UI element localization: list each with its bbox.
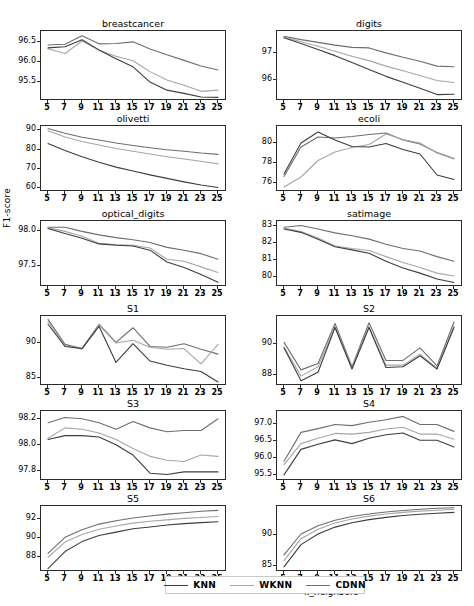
x-tick-mark — [149, 385, 150, 388]
x-tick-mark — [317, 100, 318, 103]
subplot-breastcancer: breastcancer95.596.096.55791113151719212… — [40, 18, 226, 116]
line-series-KNN — [284, 38, 454, 95]
y-tick-label: 97.0 — [254, 419, 272, 427]
x-tick-mark — [334, 480, 335, 483]
y-tick-label: 88 — [262, 370, 272, 378]
x-tick-label: 25 — [211, 484, 222, 492]
x-tick-mark — [317, 286, 318, 289]
legend-item-WKNN[interactable]: WKNN — [230, 580, 292, 590]
x-tick-label: 13 — [109, 484, 120, 492]
x-tick-label: 19 — [160, 290, 171, 298]
line-series-KNN — [284, 512, 454, 566]
x-tick-label: 9 — [78, 575, 84, 583]
x-tick-mark — [200, 480, 201, 483]
x-tick-mark — [47, 385, 48, 388]
x-tick-mark — [368, 286, 369, 289]
x-tick-mark — [453, 571, 454, 574]
x-tick-label: 23 — [430, 389, 441, 397]
x-tick-mark — [402, 480, 403, 483]
x-tick-mark — [166, 480, 167, 483]
x-tick-label: 23 — [430, 104, 441, 112]
x-tick-label: 17 — [379, 389, 390, 397]
x-tick-mark — [166, 571, 167, 574]
x-tick-label: 19 — [396, 290, 407, 298]
x-tick-mark — [351, 286, 352, 289]
series-lines — [277, 31, 463, 101]
subplot-S3: S397.898.098.25791113151719212325 — [40, 398, 226, 496]
line-series-CDNN — [48, 227, 218, 259]
x-tick-mark — [132, 480, 133, 483]
legend-item-CDNN[interactable]: CDNN — [306, 580, 365, 590]
x-tick-label: 17 — [379, 575, 390, 583]
subplot-title: S5 — [40, 493, 226, 504]
y-tick-label: 81 — [262, 255, 272, 263]
x-tick-mark — [419, 286, 420, 289]
x-tick-label: 11 — [328, 104, 339, 112]
subplot-title: ecoli — [276, 113, 462, 124]
x-tick-mark — [200, 191, 201, 194]
y-tick-label: 97.8 — [18, 466, 36, 474]
subplot-S5: S58890925791113151719212325 — [40, 493, 226, 587]
x-tick-label: 21 — [413, 575, 424, 583]
x-tick-mark — [98, 385, 99, 388]
y-tick-mark — [37, 418, 40, 419]
y-tick-label: 82 — [262, 238, 272, 246]
x-tick-label: 5 — [44, 575, 50, 583]
subplot-digits: digits96975791113151719212325 — [276, 18, 462, 116]
y-tick-mark — [273, 457, 276, 458]
x-tick-label: 23 — [430, 484, 441, 492]
y-tick-mark — [37, 61, 40, 62]
x-tick-label: 7 — [297, 195, 303, 203]
x-tick-mark — [436, 286, 437, 289]
x-tick-label: 23 — [194, 389, 205, 397]
x-tick-mark — [385, 385, 386, 388]
y-tick-label: 96.5 — [18, 37, 36, 45]
y-tick-mark — [37, 377, 40, 378]
y-tick-label: 92 — [26, 514, 36, 522]
y-tick-label: 96 — [262, 75, 272, 83]
x-tick-label: 15 — [126, 484, 137, 492]
figure-y-axis-label: F1-score — [2, 188, 12, 228]
legend-line-swatch — [164, 585, 188, 586]
legend-item-KNN[interactable]: KNN — [164, 580, 216, 590]
series-lines — [41, 221, 227, 287]
y-tick-mark — [37, 168, 40, 169]
x-tick-mark — [81, 100, 82, 103]
x-tick-label: 7 — [61, 575, 67, 583]
y-tick-label: 80 — [26, 145, 36, 153]
x-tick-mark — [81, 571, 82, 574]
x-tick-mark — [419, 100, 420, 103]
legend-label: KNN — [193, 580, 216, 590]
subplot-title: S1 — [40, 303, 226, 314]
x-tick-mark — [436, 385, 437, 388]
x-tick-mark — [200, 100, 201, 103]
x-tick-mark — [149, 100, 150, 103]
x-tick-label: 25 — [447, 389, 458, 397]
line-series-KNN — [284, 433, 454, 475]
x-tick-mark — [132, 191, 133, 194]
x-tick-label: 25 — [447, 290, 458, 298]
x-tick-mark — [334, 385, 335, 388]
y-tick-mark — [37, 149, 40, 150]
x-tick-mark — [368, 385, 369, 388]
x-tick-label: 7 — [61, 484, 67, 492]
subplot-olivetti: olivetti607080905791113151719212325 — [40, 113, 226, 207]
x-tick-mark — [183, 480, 184, 483]
line-series-KNN — [48, 229, 218, 283]
x-tick-mark — [115, 385, 116, 388]
y-tick-mark — [273, 565, 276, 566]
line-series-CDNN — [48, 418, 218, 432]
x-tick-label: 5 — [280, 389, 286, 397]
x-tick-label: 21 — [413, 195, 424, 203]
x-tick-mark — [300, 571, 301, 574]
x-tick-mark — [115, 571, 116, 574]
line-series-KNN — [48, 522, 218, 569]
x-tick-label: 9 — [314, 389, 320, 397]
x-tick-label: 23 — [430, 290, 441, 298]
y-tick-label: 85 — [26, 373, 36, 381]
x-tick-mark — [334, 100, 335, 103]
y-tick-label: 85 — [262, 561, 272, 569]
x-tick-mark — [98, 571, 99, 574]
x-tick-label: 23 — [194, 104, 205, 112]
x-tick-label: 15 — [362, 195, 373, 203]
